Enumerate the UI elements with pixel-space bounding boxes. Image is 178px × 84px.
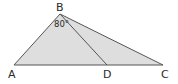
triangle-diagram: B A D C 80° (0, 0, 178, 84)
vertex-label-c: C (161, 68, 169, 81)
vertex-label-a: A (8, 68, 16, 81)
vertex-label-d: D (103, 68, 111, 81)
vertex-label-b: B (56, 1, 64, 14)
angle-label-abd: 80° (54, 19, 69, 29)
